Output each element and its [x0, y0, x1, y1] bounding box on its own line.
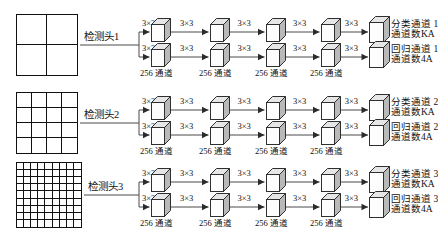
grid-cell	[45, 199, 52, 206]
grid-cell	[17, 220, 24, 227]
head-3-classification-conv-link-1-arrow-icon	[202, 179, 209, 185]
grid-cell	[31, 206, 38, 213]
head-3-regression-kernel-label-4: 3×3	[293, 194, 306, 203]
grid-cell	[53, 206, 60, 213]
grid-cell	[67, 220, 74, 227]
head-2-regression-output-cube-shape	[369, 119, 391, 147]
head-2-regression-conv-cube-3-shape	[266, 121, 287, 146]
head-1-classification-conv-link-1-arrow-icon	[202, 29, 209, 35]
grid-cell	[45, 213, 52, 220]
grid-cell	[38, 213, 45, 220]
head-1-classification-conv-1-in-arrow-icon	[143, 29, 150, 35]
head-1-regression-channel-label-4: 256 通道	[310, 69, 343, 78]
head-3-classification-conv-link-3-arrow-icon	[313, 179, 320, 185]
cube-front-face	[210, 49, 223, 66]
grid-cell	[17, 45, 47, 75]
head-3-regression-conv-cube-2	[210, 193, 229, 216]
head-2-classification-conv-cube-1	[151, 96, 170, 119]
head-3-classification-kernel-label-3: 3×3	[238, 169, 251, 178]
grid-cell	[24, 206, 31, 213]
head-2-regression-conv-cube-4	[321, 121, 340, 144]
head-3-regression-output-line-2: 通道数4A	[391, 205, 438, 215]
head-2-classification-output-label: 分类通道 2通道数KA	[391, 98, 438, 118]
head-1-classification-output-line-2: 通道数KA	[391, 30, 438, 40]
head-3-regression-kernel-label-2: 3×3	[180, 194, 193, 203]
grid-cell	[17, 108, 32, 123]
head-3-regression-channel-label-1: 256 通道	[140, 219, 173, 228]
cube-front-face	[151, 24, 164, 41]
grid-cell	[32, 123, 47, 138]
head-3-classification-conv-cube-4-shape	[321, 168, 342, 193]
grid-cell	[24, 213, 31, 220]
grid-cell	[47, 123, 62, 138]
cube-front-face	[151, 127, 164, 144]
head-3-regression-channel-label-2: 256 通道	[199, 219, 232, 228]
grid-cell	[45, 220, 52, 227]
head-3-classification-output-line-1: 分类通道 3	[391, 169, 438, 179]
grid-cell	[38, 220, 45, 227]
grid-cell	[45, 191, 52, 198]
cube-front-face	[210, 127, 223, 144]
cube-front-face	[210, 102, 223, 119]
grid-cell	[17, 184, 24, 191]
grid-cell	[53, 170, 60, 177]
head-1-regression-output-line-1: 回归通道 1	[391, 44, 438, 54]
cube-front-face	[321, 127, 334, 144]
grid-cell	[17, 199, 24, 206]
cube-front-face	[266, 127, 279, 144]
grid-cell	[74, 206, 81, 213]
head-2-regression-conv-1-in-arrow-icon	[143, 132, 150, 138]
head-2-classification-kernel-label-4: 3×3	[293, 97, 306, 106]
head-1-regression-conv-link-4-arrow-icon	[362, 54, 369, 60]
cube-front-face	[210, 174, 223, 191]
grid-cell	[60, 199, 67, 206]
grid-cell	[24, 199, 31, 206]
head-2-regression-channel-label-4: 256 通道	[310, 147, 343, 156]
grid-cell	[53, 199, 60, 206]
cube-front-face	[210, 24, 223, 41]
grid-cell	[47, 138, 62, 153]
grid-cell	[31, 163, 38, 170]
grid-cell	[45, 184, 52, 191]
grid-cell	[45, 163, 52, 170]
grid-cell	[60, 206, 67, 213]
feature-map-head-1	[16, 14, 78, 76]
cube-front-face	[370, 173, 384, 193]
head-2-regression-conv-link-1-arrow-icon	[202, 132, 209, 138]
grid-cell	[17, 206, 24, 213]
grid-cell	[45, 206, 52, 213]
grid-cell	[31, 199, 38, 206]
grid-cell	[74, 177, 81, 184]
head-1-classification-conv-cube-2-shape	[210, 18, 231, 43]
grid-cell	[53, 213, 60, 220]
head-3-classification-conv-1-in-arrow-icon	[143, 179, 150, 185]
grid-cell	[24, 191, 31, 198]
head-1-classification-conv-link-3-arrow-icon	[313, 29, 320, 35]
head-1-regression-conv-cube-4-shape	[321, 43, 342, 68]
head-1-regression-conv-link-2-arrow-icon	[258, 54, 265, 60]
head-2-regression-conv-cube-4-shape	[321, 121, 342, 146]
head-3-classification-conv-cube-2	[210, 168, 229, 191]
grid-cell	[24, 163, 31, 170]
cube-front-face	[151, 199, 164, 216]
grid-cell	[67, 170, 74, 177]
grid-cell	[67, 177, 74, 184]
head-2-classification-conv-1-in-arrow-icon	[143, 107, 150, 113]
head-2-regression-kernel-label-5: 3×3	[345, 122, 358, 131]
grid-cell	[60, 170, 67, 177]
head-1-regression-conv-link-1-arrow-icon	[202, 54, 209, 60]
head-3-regression-conv-1-in-arrow-icon	[143, 204, 150, 210]
head-2-regression-conv-cube-2	[210, 121, 229, 144]
head-1-regression-conv-cube-1	[151, 43, 170, 66]
head-1-regression-kernel-label-2: 3×3	[180, 44, 193, 53]
grid-cell	[31, 220, 38, 227]
grid-cell	[62, 123, 77, 138]
head-1-classification-output-cube	[369, 16, 389, 42]
grid-cell	[31, 177, 38, 184]
grid-cell	[17, 191, 24, 198]
head-2-regression-conv-cube-3	[266, 121, 285, 144]
grid-cell	[38, 199, 45, 206]
head-2-regression-conv-link-4-arrow-icon	[362, 132, 369, 138]
head-3-classification-conv-cube-3	[266, 168, 285, 191]
head-2-regression-output-cube	[369, 119, 389, 145]
